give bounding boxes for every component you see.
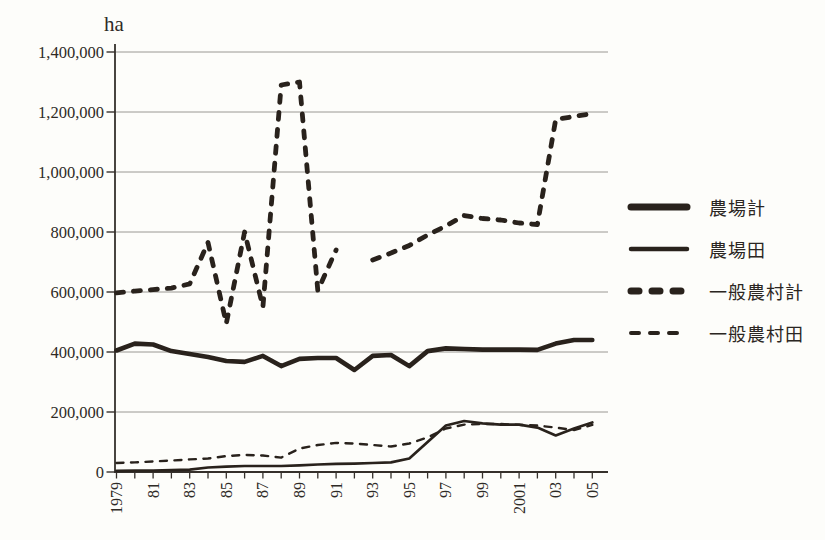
x-axis-labels: 19798183858789919395979920010305 xyxy=(108,482,601,514)
y-axis-ticks: 0200,000400,000600,000800,0001,000,0001,… xyxy=(38,43,115,482)
legend-item-village-paddy: 一般農村田 xyxy=(627,312,804,354)
x-tick-label: 99 xyxy=(474,482,491,498)
y-tick-label: 0 xyxy=(96,463,104,482)
y-tick-label: 200,000 xyxy=(50,403,104,422)
legend-swatch-farm-paddy xyxy=(627,242,691,256)
y-tick-label: 1,000,000 xyxy=(38,163,104,182)
y-axis-unit-label: ha xyxy=(104,12,124,37)
legend-label: 一般農村田 xyxy=(709,320,804,346)
chart-figure: 0200,000400,000600,000800,0001,000,0001,… xyxy=(0,0,825,540)
legend-swatch-village-paddy xyxy=(627,326,691,340)
y-tick-label: 400,000 xyxy=(50,343,104,362)
x-tick-label: 85 xyxy=(218,482,235,498)
x-axis-ticks xyxy=(117,472,593,479)
x-tick-label: 97 xyxy=(437,482,454,498)
legend-label: 農場田 xyxy=(709,236,766,262)
series-line-farm-total xyxy=(117,340,593,370)
x-tick-label: 1979 xyxy=(108,482,125,514)
legend-label: 一般農村計 xyxy=(709,278,804,304)
x-tick-label: 87 xyxy=(254,482,271,498)
legend-item-farm-paddy: 農場田 xyxy=(627,228,804,270)
y-tick-label: 1,200,000 xyxy=(38,103,104,122)
x-tick-label: 2001 xyxy=(511,482,528,514)
y-tick-label: 800,000 xyxy=(50,223,104,242)
legend-swatch-village-total xyxy=(627,284,691,298)
y-tick-label: 1,400,000 xyxy=(38,43,104,62)
x-tick-label: 03 xyxy=(547,482,564,498)
legend-swatch-farm-total xyxy=(627,200,691,214)
gridlines xyxy=(115,52,608,412)
y-tick-label: 600,000 xyxy=(50,283,104,302)
x-tick-label: 91 xyxy=(328,482,345,498)
chart-legend: 農場計農場田一般農村計一般農村田 xyxy=(627,186,804,354)
series-line-village-total xyxy=(117,82,593,324)
axes xyxy=(114,44,608,473)
x-tick-label: 81 xyxy=(145,482,162,498)
x-tick-label: 83 xyxy=(181,482,198,498)
series-line-farm-paddy xyxy=(117,421,593,471)
legend-item-farm-total: 農場計 xyxy=(627,186,804,228)
x-tick-label: 05 xyxy=(584,482,601,498)
x-tick-label: 95 xyxy=(401,482,418,498)
series-line-village-paddy xyxy=(117,424,593,463)
legend-label: 農場計 xyxy=(709,194,766,220)
x-tick-label: 89 xyxy=(291,482,308,498)
x-tick-label: 93 xyxy=(364,482,381,498)
legend-item-village-total: 一般農村計 xyxy=(627,270,804,312)
